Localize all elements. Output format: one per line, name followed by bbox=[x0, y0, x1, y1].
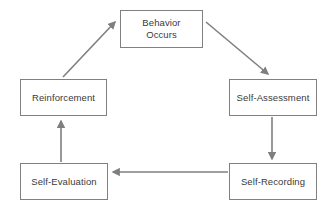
node-behavior-occurs[interactable]: Behavior Occurs bbox=[120, 10, 203, 48]
node-self-evaluation[interactable]: Self-Evaluation bbox=[20, 163, 108, 200]
node-self-assessment[interactable]: Self-Assessment bbox=[229, 79, 317, 116]
edge-behavior-to-assessment bbox=[206, 22, 268, 74]
node-self-assessment-label: Self-Assessment bbox=[235, 92, 312, 104]
node-reinforcement-label: Reinforcement bbox=[30, 92, 97, 104]
node-self-recording-label: Self-Recording bbox=[239, 176, 307, 188]
node-behavior-occurs-label: Behavior Occurs bbox=[140, 17, 182, 41]
diagram-canvas: Behavior Occurs Self-Assessment Self-Rec… bbox=[0, 0, 334, 211]
node-self-recording[interactable]: Self-Recording bbox=[229, 163, 317, 200]
node-self-evaluation-label: Self-Evaluation bbox=[29, 176, 98, 188]
node-reinforcement[interactable]: Reinforcement bbox=[20, 79, 107, 116]
edge-reinforcement-to-behavior bbox=[63, 22, 115, 77]
